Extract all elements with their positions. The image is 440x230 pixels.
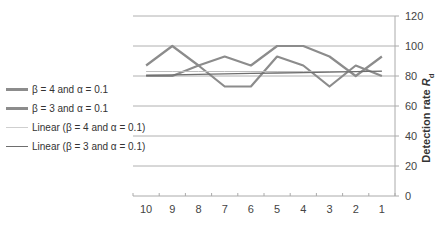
- y-axis-label-subscript: d: [427, 73, 436, 78]
- x-tick-label: 5: [274, 203, 280, 215]
- legend: β = 4 and α = 0.1 β = 3 and α = 0.1 Line…: [6, 80, 145, 156]
- legend-label: β = 4 and α = 0.1: [32, 84, 108, 95]
- y-axis-label: Detection rate Rd: [420, 73, 435, 162]
- y-axis-label-symbol: R: [420, 78, 432, 86]
- series-line: [146, 46, 382, 87]
- y-tick-label: 100: [405, 40, 423, 52]
- legend-swatch-beta3: [6, 107, 28, 110]
- legend-label: Linear (β = 3 and α = 0.1): [32, 141, 145, 152]
- x-tick-label: 1: [379, 203, 385, 215]
- x-tick-label: 10: [140, 203, 152, 215]
- legend-item-linear-beta3: Linear (β = 3 and α = 0.1): [6, 137, 145, 156]
- gridlines: [133, 16, 395, 166]
- x-tick-label: 2: [353, 203, 359, 215]
- y-tick-label: 20: [405, 160, 417, 172]
- legend-swatch-linear-beta3: [6, 146, 28, 147]
- legend-item-beta3: β = 3 and α = 0.1: [6, 99, 145, 118]
- y-axis-label-text: Detection rate: [420, 86, 432, 162]
- series-lines: [146, 46, 382, 87]
- x-tick-label: 3: [326, 203, 332, 215]
- x-tick-label: 9: [169, 203, 175, 215]
- x-tick-label: 7: [222, 203, 228, 215]
- legend-swatch-linear-beta4: [6, 127, 28, 128]
- y-tick-label: 80: [405, 70, 417, 82]
- x-tick-label: 6: [248, 203, 254, 215]
- x-tick-label: 4: [300, 203, 306, 215]
- legend-label: Linear (β = 4 and α = 0.1): [32, 122, 145, 133]
- y-tick-label: 40: [405, 130, 417, 142]
- legend-swatch-beta4: [6, 88, 28, 91]
- y-tick-label: 0: [405, 190, 411, 202]
- legend-item-linear-beta4: Linear (β = 4 and α = 0.1): [6, 118, 145, 137]
- legend-item-beta4: β = 4 and α = 0.1: [6, 80, 145, 99]
- legend-label: β = 3 and α = 0.1: [32, 103, 108, 114]
- y-tick-label: 120: [405, 10, 423, 22]
- x-tick-labels: 10987654321: [140, 203, 385, 215]
- y-tick-label: 60: [405, 100, 417, 112]
- x-tick-label: 8: [195, 203, 201, 215]
